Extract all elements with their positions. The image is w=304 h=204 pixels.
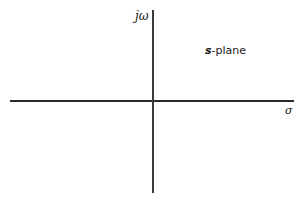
plane-suffix: -plane (212, 44, 247, 57)
plane-label: s-plane (205, 44, 246, 57)
real-axis-label: σ (285, 104, 293, 117)
imaginary-axis-label: jω (135, 9, 149, 23)
imaginary-axis-line (152, 10, 154, 193)
